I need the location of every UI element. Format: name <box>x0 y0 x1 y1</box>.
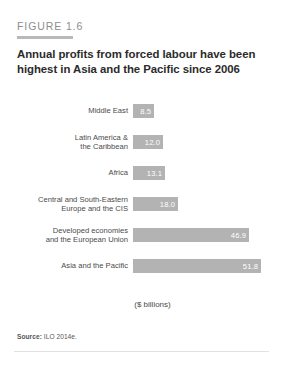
bar-central-south-eastern-europe-cis[interactable]: 18.0 <box>133 197 178 211</box>
bar-track: 51.8 <box>133 259 283 273</box>
bar-value-label: 12.0 <box>145 138 160 147</box>
source-value: ILO 2014e. <box>42 333 77 340</box>
bar-track: 12.0 <box>133 135 283 149</box>
source-prefix: Source: <box>17 333 42 340</box>
category-label: Developed economies and the European Uni… <box>0 226 133 244</box>
bar-track: 8.5 <box>133 104 283 118</box>
bar-latin-america-caribbean[interactable]: 12.0 <box>133 135 163 149</box>
bar-middle-east[interactable]: 8.5 <box>133 104 154 118</box>
category-label: Central and South-Eastern Europe and the… <box>0 195 133 213</box>
figure-title: Annual profits from forced labour have b… <box>17 47 265 77</box>
figure-number-label: FIGURE 1.6 <box>17 20 83 32</box>
chart-row: Asia and the Pacific 51.8 <box>0 259 283 273</box>
bar-track: 13.1 <box>133 166 283 180</box>
bar-value-label: 13.1 <box>147 169 162 178</box>
chart-row: Latin America & the Caribbean 12.0 <box>0 135 283 149</box>
bar-track: 18.0 <box>133 197 283 211</box>
figure-card: FIGURE 1.6 Annual profits from forced la… <box>0 0 283 366</box>
category-label: Asia and the Pacific <box>0 261 133 270</box>
accent-rule <box>17 36 73 39</box>
category-label: Africa <box>0 168 133 177</box>
bar-developed-economies-eu[interactable]: 46.9 <box>133 228 249 242</box>
bar-value-label: 51.8 <box>243 262 258 271</box>
bar-track: 46.9 <box>133 228 283 242</box>
bar-value-label: 8.5 <box>140 107 151 116</box>
bar-africa[interactable]: 13.1 <box>133 166 165 180</box>
category-label: Latin America & the Caribbean <box>0 133 133 151</box>
bar-value-label: 46.9 <box>231 231 246 240</box>
category-label: Middle East <box>0 106 133 115</box>
chart-row: Middle East 8.5 <box>0 104 283 118</box>
bar-chart: Middle East 8.5 Latin America & the Cari… <box>0 104 283 290</box>
bottom-divider <box>14 351 269 352</box>
chart-row: Developed economies and the European Uni… <box>0 228 283 242</box>
chart-row: Central and South-Eastern Europe and the… <box>0 197 283 211</box>
bar-value-label: 18.0 <box>160 200 175 209</box>
axis-unit-caption: ($ billions) <box>0 300 283 309</box>
chart-row: Africa 13.1 <box>0 166 283 180</box>
source-note: Source: ILO 2014e. <box>17 333 77 340</box>
bar-asia-pacific[interactable]: 51.8 <box>133 259 261 273</box>
